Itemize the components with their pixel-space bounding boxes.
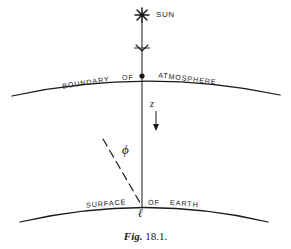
atmosphere-boundary-arc [12, 81, 280, 96]
intersection-dot-icon [139, 73, 144, 78]
downward-depth-arrow-icon [153, 111, 159, 131]
surface-of-label: OF [148, 198, 160, 207]
figure-container: SUN BOUNDARY OF ATMOSPHERE SURFACE OF EA… [0, 0, 291, 249]
earth-surface-arc [20, 208, 268, 223]
sun-asterisk-icon [135, 8, 149, 22]
point-l-label: ℓ [138, 206, 143, 221]
sun-label: SUN [156, 10, 175, 19]
caption-number: 18.1. [142, 230, 167, 242]
figure-caption: Fig. 18.1. [0, 230, 291, 242]
zenith-depth-label: z [150, 98, 154, 109]
caption-prefix: Fig. [124, 230, 143, 242]
boundary-of-label: OF [122, 73, 134, 82]
solar-geometry-diagram [0, 0, 291, 249]
angle-phi-label: ϕ [122, 142, 129, 158]
